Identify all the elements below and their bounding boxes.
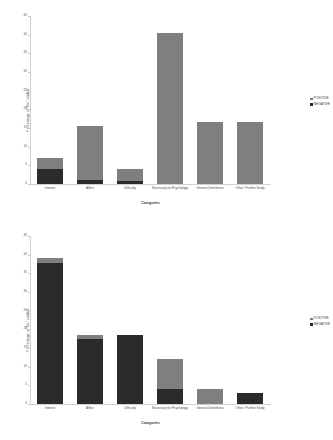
bar-slot: Interest [30,236,70,404]
bar-slot: Difficulty [110,236,150,404]
stacked-bar[interactable] [37,258,63,404]
category-label: General Usefulness [188,187,232,191]
category-label: Necessary for Psychology [148,187,192,191]
bar-segment-negative[interactable] [117,181,143,184]
bar-segment-negative[interactable] [237,393,263,404]
stacked-bar[interactable] [77,335,103,404]
bar-slot: Other / Further Study [230,236,270,404]
stacked-bar[interactable] [77,126,103,184]
category-label: Other / Further Study [228,407,272,411]
category-label: Affect [68,407,112,411]
bar-slot: Necessary for Psychology [150,16,190,184]
bar-segment-negative[interactable] [157,389,183,404]
chart-bottom: Percentage of "No" studets 4540353025201… [0,220,333,440]
bar-group-bottom: InterestAffectDifficultyNecessary for Ps… [30,236,270,404]
bar-segment-positive[interactable] [77,126,103,180]
bar-segment-negative[interactable] [37,169,63,184]
legend-item[interactable]: NEGATIVE [310,102,330,108]
y-tick-mark [28,404,30,405]
bar-segment-negative[interactable] [77,180,103,184]
chart-top: Percentage of "No" studets 4540353025201… [0,0,333,220]
stacked-bar[interactable] [37,158,63,184]
stacked-bar[interactable] [157,359,183,404]
x-axis-label-bottom: Categories [30,421,271,425]
category-label: Difficulty [108,407,152,411]
bar-slot: Difficulty [110,16,150,184]
bar-slot: Necessary for Psychology [150,236,190,404]
x-axis-line-top [30,184,271,185]
bar-segment-positive[interactable] [197,122,223,184]
stacked-bar[interactable] [197,122,223,184]
category-label: General Usefulness [188,407,232,411]
y-tick-mark [28,184,30,185]
legend-swatch-icon [310,98,313,101]
bar-slot: Affect [70,236,110,404]
bar-segment-positive[interactable] [157,33,183,184]
stacked-bar[interactable] [117,169,143,184]
legend-swatch-icon [310,103,313,106]
bar-segment-positive[interactable] [157,359,183,389]
bar-segment-positive[interactable] [117,169,143,181]
legend-label: NEGATIVE [314,102,330,108]
legend-top: POSITIVENEGATIVE [310,96,330,107]
bar-segment-negative[interactable] [77,339,103,404]
plot-area-top: 454035302520151050 InterestAffectDifficu… [30,16,270,184]
legend-swatch-icon [310,318,313,321]
bar-segment-positive[interactable] [197,389,223,404]
x-axis-label-top: Categories [30,201,271,205]
legend-item[interactable]: NEGATIVE [310,322,330,328]
stacked-bar[interactable] [157,33,183,184]
plot-area-bottom: 454035302520151050 InterestAffectDifficu… [30,236,270,404]
bar-segment-negative[interactable] [117,335,143,404]
category-label: Affect [68,187,112,191]
category-label: Difficulty [108,187,152,191]
x-axis-line-bottom [30,404,271,405]
stacked-bar[interactable] [237,393,263,404]
bar-group-top: InterestAffectDifficultyNecessary for Ps… [30,16,270,184]
bar-slot: General Usefulness [190,16,230,184]
category-label: Interest [28,187,72,191]
bar-segment-positive[interactable] [237,122,263,184]
bar-segment-negative[interactable] [37,263,63,404]
legend-swatch-icon [310,323,313,326]
bar-slot: Other / Further Study [230,16,270,184]
bar-slot: General Usefulness [190,236,230,404]
stacked-bar[interactable] [117,335,143,404]
legend-label: NEGATIVE [314,322,330,328]
stacked-bar[interactable] [237,122,263,184]
bar-slot: Affect [70,16,110,184]
bar-slot: Interest [30,16,70,184]
bar-segment-positive[interactable] [37,158,63,169]
category-label: Interest [28,407,72,411]
category-label: Other / Further Study [228,187,272,191]
category-label: Necessary for Psychology [148,407,192,411]
stacked-bar[interactable] [197,389,223,404]
legend-bottom: POSITIVENEGATIVE [310,316,330,327]
